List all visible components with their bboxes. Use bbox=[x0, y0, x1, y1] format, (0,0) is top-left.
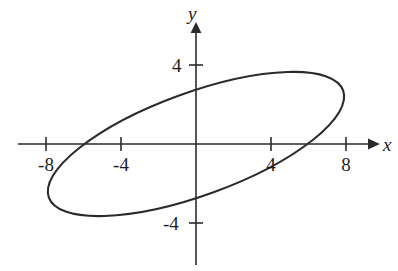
y-tick-label-neg4: -4 bbox=[163, 214, 179, 233]
x-axis-label: x bbox=[383, 135, 391, 154]
x-axis bbox=[18, 137, 380, 151]
x-axis-arrowhead bbox=[368, 139, 380, 150]
x-tick-label-neg8: -8 bbox=[38, 155, 54, 174]
y-axis-label: y bbox=[188, 4, 196, 23]
x-tick-label-neg4: -4 bbox=[113, 155, 129, 174]
coordinate-plane-svg bbox=[0, 0, 398, 271]
x-tick-label-pos4: 4 bbox=[266, 155, 276, 174]
graph-figure: x y -8 -4 4 8 4 -4 bbox=[0, 0, 398, 271]
x-tick-label-pos8: 8 bbox=[341, 155, 351, 174]
y-tick-label-pos4: 4 bbox=[172, 56, 182, 75]
